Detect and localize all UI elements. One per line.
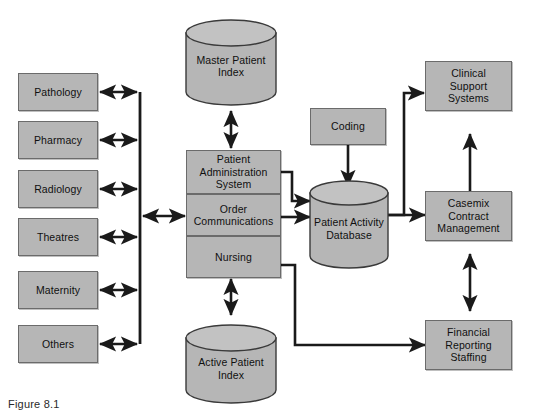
feeder-label-pathology: Pathology: [34, 86, 82, 99]
casemix-contract-management-box[interactable]: Casemix Contract Management: [425, 191, 512, 241]
financial-line3: Staffing: [450, 351, 486, 364]
clinical-support-line1: Clinical: [451, 67, 486, 80]
pas-box-order-communications[interactable]: Order Communications: [186, 194, 281, 236]
financial-line2: Reporting: [445, 339, 491, 352]
coding-label: Coding: [331, 120, 365, 133]
mpi-line1: Master: [196, 54, 229, 66]
feeder-label-radiology: Radiology: [34, 183, 82, 196]
pad-line1: Patient: [314, 216, 347, 228]
connector-patient-activity-database-to-clinical-support: [388, 93, 424, 215]
pad-line3: Database: [326, 229, 372, 241]
feeder-box-maternity[interactable]: Maternity: [18, 271, 98, 309]
casemix-line2: Contract: [448, 210, 488, 223]
figure-caption: Figure 8.1: [8, 398, 60, 410]
financial-reporting-staffing-box[interactable]: Financial Reporting Staffing: [425, 320, 512, 370]
api-line2: Patient: [230, 356, 263, 368]
master-patient-index-label: Master Patient Index: [186, 47, 276, 79]
pas-label-line1: Patient: [217, 153, 250, 166]
mpi-line3: Index: [218, 66, 244, 78]
pas-box-patient-administration-system[interactable]: Patient Administration System: [186, 150, 281, 194]
active-patient-index[interactable]: Active Patient Index: [186, 325, 276, 405]
patient-activity-database-label: Patient Activity Database: [310, 209, 388, 241]
feeder-label-pharmacy: Pharmacy: [34, 134, 82, 147]
master-patient-index[interactable]: Master Patient Index: [186, 20, 276, 105]
order-communications-label-line2: Communications: [194, 215, 274, 228]
mpi-line2: Patient: [232, 54, 265, 66]
coding-box[interactable]: Coding: [310, 108, 386, 145]
nursing-label: Nursing: [215, 251, 252, 264]
feeder-box-pathology[interactable]: Pathology: [18, 73, 98, 111]
clinical-support-line2: Support: [450, 80, 487, 93]
clinical-support-line3: Systems: [448, 92, 489, 105]
figure-canvas: Pathology Pharmacy Radiology Theatres Ma…: [0, 0, 533, 411]
api-line1: Active: [198, 356, 227, 368]
active-patient-index-label: Active Patient Index: [186, 349, 276, 381]
financial-line1: Financial: [447, 326, 490, 339]
feeder-box-others[interactable]: Others: [18, 325, 98, 363]
connector-pas-to-patient-activity-database: [281, 172, 310, 201]
clinical-support-systems-box[interactable]: Clinical Support Systems: [425, 61, 512, 111]
order-communications-label-line1: Order: [220, 203, 247, 216]
feeder-label-others: Others: [42, 338, 74, 351]
pas-box-nursing[interactable]: Nursing: [186, 236, 281, 278]
connector-nursing-to-financial-reporting: [281, 265, 425, 345]
pas-label-line3: System: [216, 178, 252, 191]
pas-label-line2: Administration: [200, 166, 268, 179]
feeder-box-pharmacy[interactable]: Pharmacy: [18, 121, 98, 159]
casemix-line3: Management: [437, 222, 499, 235]
patient-activity-database[interactable]: Patient Activity Database: [310, 181, 388, 269]
feeder-box-theatres[interactable]: Theatres: [18, 218, 98, 256]
api-line3: Index: [218, 369, 244, 381]
feeder-box-radiology[interactable]: Radiology: [18, 170, 98, 208]
feeder-label-theatres: Theatres: [37, 231, 79, 244]
feeder-label-maternity: Maternity: [36, 284, 80, 297]
pad-line2: Activity: [350, 216, 384, 228]
casemix-line1: Casemix: [448, 197, 490, 210]
